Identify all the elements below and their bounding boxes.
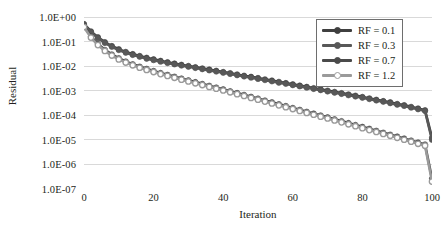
data-point <box>123 60 128 65</box>
data-point <box>130 63 135 68</box>
data-point <box>367 127 372 132</box>
x-axis-tick-labels: 020406080100 <box>84 192 432 208</box>
data-point <box>207 68 212 73</box>
data-point <box>200 82 205 87</box>
data-point <box>429 137 432 142</box>
legend-marker-icon <box>334 72 341 79</box>
x-tick-label-2: 40 <box>218 192 229 204</box>
legend-marker-icon <box>334 27 341 34</box>
data-point <box>360 95 365 100</box>
data-point <box>137 54 142 59</box>
data-point <box>130 52 135 57</box>
data-point <box>422 108 427 113</box>
y-tick-label-6: 1.0E-06 <box>42 159 76 170</box>
legend-swatch-icon <box>322 70 352 81</box>
x-tick-label-1: 20 <box>148 192 159 204</box>
data-point <box>109 44 114 49</box>
data-point <box>422 143 427 148</box>
y-tick-label-7: 1.0E-07 <box>42 184 76 195</box>
y-tick-label-3: 1.0E-03 <box>42 85 76 96</box>
data-point <box>248 75 253 80</box>
legend-item-2[interactable]: RF = 0.3 <box>322 38 395 53</box>
data-point <box>290 82 295 87</box>
data-point <box>95 42 100 47</box>
data-point <box>415 107 420 112</box>
data-point <box>353 94 358 99</box>
x-tick-label-0: 0 <box>81 192 86 204</box>
y-tick-label-2: 1.0E-02 <box>42 61 76 72</box>
data-point <box>339 91 344 96</box>
y-tick-label-5: 1.0E-05 <box>42 134 76 145</box>
data-point <box>234 91 239 96</box>
data-point <box>297 84 302 89</box>
data-point <box>269 79 274 84</box>
data-point <box>408 105 413 110</box>
data-point <box>200 67 205 72</box>
x-axis-title: Iteration <box>84 208 432 220</box>
data-point <box>241 93 246 98</box>
legend-label: RF = 1.2 <box>358 70 395 82</box>
data-point <box>262 77 267 82</box>
data-point <box>311 112 316 117</box>
data-point <box>95 35 100 40</box>
data-point <box>248 95 253 100</box>
data-point <box>401 137 406 142</box>
data-point <box>388 133 393 138</box>
chart-legend: RF = 0.1RF = 0.3RF = 0.7RF = 1.2 <box>316 19 403 87</box>
data-point <box>172 75 177 80</box>
data-point <box>332 118 337 123</box>
legend-label: RF = 0.3 <box>358 40 395 52</box>
data-point <box>415 141 420 146</box>
data-point <box>186 79 191 84</box>
data-point <box>304 85 309 90</box>
x-tick-label-5: 100 <box>424 192 440 204</box>
data-point <box>123 50 128 55</box>
data-point <box>88 35 93 40</box>
legend-item-3[interactable]: RF = 0.7 <box>322 53 395 68</box>
data-point <box>429 179 432 184</box>
data-point <box>290 106 295 111</box>
data-point <box>158 71 163 76</box>
data-point <box>325 89 330 94</box>
data-point <box>346 93 351 98</box>
data-point <box>408 139 413 144</box>
y-tick-label-4: 1.0E-04 <box>42 110 76 121</box>
data-point <box>102 40 107 45</box>
data-point <box>339 120 344 125</box>
data-point <box>186 64 191 69</box>
data-point <box>102 48 107 53</box>
data-point <box>374 129 379 134</box>
legend-item-4[interactable]: RF = 1.2 <box>322 68 395 83</box>
data-point <box>179 77 184 82</box>
data-point <box>158 59 163 64</box>
y-tick-label-0: 1.0E+00 <box>39 12 76 23</box>
data-point <box>381 99 386 104</box>
legend-swatch-icon <box>322 25 352 36</box>
data-point <box>395 102 400 107</box>
data-point <box>227 90 232 95</box>
data-point <box>214 86 219 91</box>
data-point <box>276 103 281 108</box>
data-point <box>360 125 365 130</box>
data-point <box>311 86 316 91</box>
data-point <box>388 101 393 106</box>
data-point <box>151 57 156 62</box>
legend-label: RF = 0.7 <box>358 55 395 67</box>
legend-item-1[interactable]: RF = 0.1 <box>322 23 395 38</box>
data-point <box>172 62 177 67</box>
data-point <box>193 81 198 86</box>
data-point <box>179 63 184 68</box>
data-point <box>255 76 260 81</box>
data-point <box>276 80 281 85</box>
legend-marker-icon <box>334 57 341 64</box>
data-point <box>234 73 239 78</box>
data-point <box>318 114 323 119</box>
legend-swatch-icon <box>322 40 352 51</box>
data-point <box>193 65 198 70</box>
data-point <box>137 65 142 70</box>
data-point <box>374 98 379 103</box>
y-axis-tick-labels: 1.0E+001.0E-011.0E-021.0E-031.0E-041.0E-… <box>0 17 80 189</box>
residual-convergence-chart: Residual 1.0E+001.0E-011.0E-021.0E-031.0… <box>0 0 445 244</box>
legend-label: RF = 0.1 <box>358 25 395 37</box>
data-point <box>381 131 386 136</box>
